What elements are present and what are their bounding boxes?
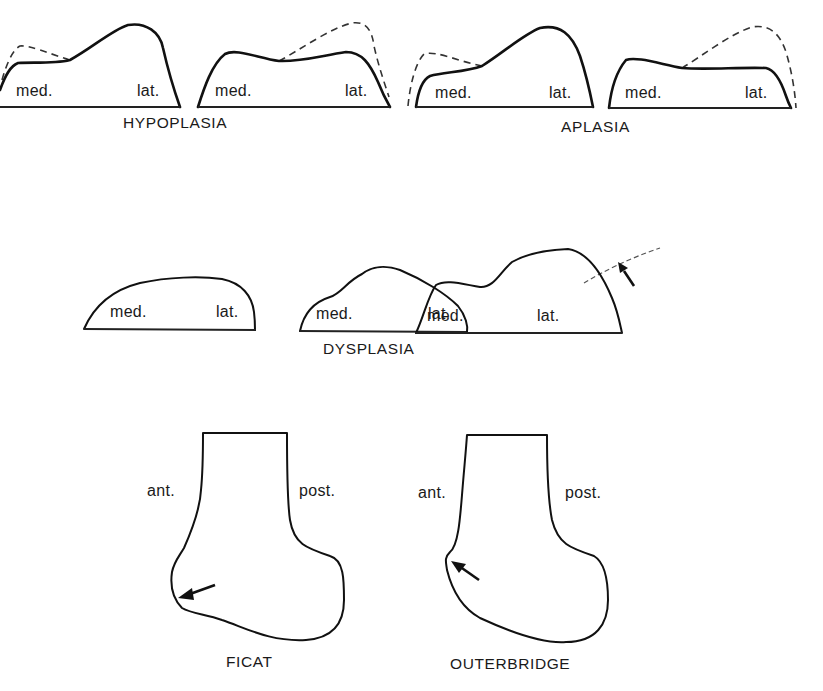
base-line bbox=[84, 329, 256, 330]
ficat-lesion-arrow-icon bbox=[178, 585, 215, 600]
caption-ficat: FICAT bbox=[226, 653, 273, 671]
hypoplasia-1-med-label: med. bbox=[16, 82, 53, 100]
hypoplasia-2-med-label: med. bbox=[215, 82, 252, 100]
outerbridge-lesion-arrow-icon bbox=[451, 561, 479, 580]
base-line bbox=[299, 331, 466, 332]
dysplasia-3-lat-label: lat. bbox=[537, 307, 560, 325]
caption-dysplasia: DYSPLASIA bbox=[323, 340, 415, 358]
aplasia-1-lat-label: lat. bbox=[549, 84, 572, 102]
lesion-arrow-icon bbox=[618, 262, 634, 286]
outerbridge-post-label: post. bbox=[565, 484, 601, 502]
ficat-femur-outline bbox=[171, 433, 344, 640]
aplasia-1-med-label: med. bbox=[435, 84, 472, 102]
dysplasia-1-med-label: med. bbox=[110, 303, 147, 321]
ficat-ant-label: ant. bbox=[147, 482, 175, 500]
outerbridge-ant-label: ant. bbox=[418, 484, 446, 502]
ficat-post-label: post. bbox=[299, 482, 335, 500]
caption-outerbridge: OUTERBRIDGE bbox=[450, 655, 570, 673]
dysplasia-2-med-label: med. bbox=[316, 305, 353, 323]
hypoplasia-1-lat-label: lat. bbox=[137, 82, 160, 100]
femur-contour bbox=[171, 433, 344, 640]
dysplasia-3-med-label: med. bbox=[427, 307, 464, 325]
outerbridge-femur-outline bbox=[446, 435, 608, 642]
dysplasia-1-lat-label: lat. bbox=[216, 303, 239, 321]
caption-hypoplasia: HYPOPLASIA bbox=[123, 114, 227, 132]
caption-aplasia: APLASIA bbox=[561, 118, 630, 136]
aplasia-2-lat-label: lat. bbox=[745, 84, 768, 102]
femur-contour bbox=[446, 435, 608, 642]
aplasia-2-med-label: med. bbox=[625, 84, 662, 102]
hypoplasia-2-lat-label: lat. bbox=[345, 82, 368, 100]
